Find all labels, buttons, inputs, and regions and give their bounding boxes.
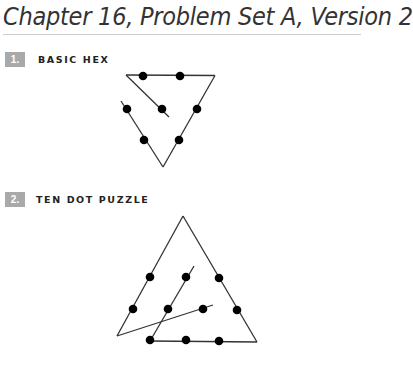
puzzle-dot	[129, 305, 138, 314]
puzzle-dot	[215, 274, 224, 283]
puzzle-dot	[164, 305, 173, 314]
figure-line	[150, 341, 257, 342]
puzzle-dot	[146, 273, 155, 282]
puzzle-dot	[233, 306, 242, 315]
puzzle-dot	[146, 336, 155, 345]
puzzle-dot	[215, 337, 224, 346]
puzzle-dot	[182, 273, 191, 282]
puzzle-dot	[182, 336, 191, 345]
puzzle-dot	[199, 305, 208, 314]
